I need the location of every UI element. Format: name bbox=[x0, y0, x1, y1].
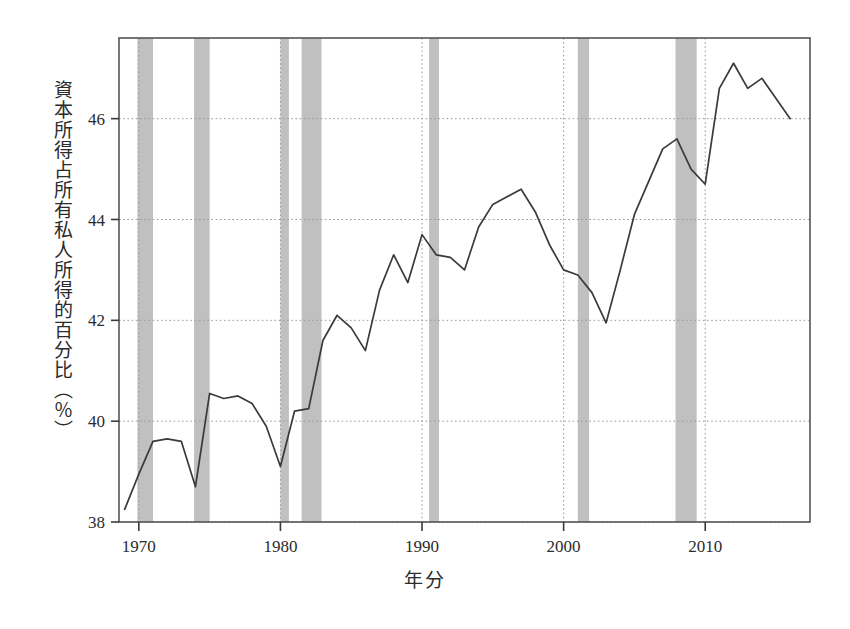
x-axis-tick-label: 1970 bbox=[122, 537, 156, 556]
recession-bands-group bbox=[137, 38, 696, 522]
y-axis-tick-label: 46 bbox=[88, 110, 105, 129]
recession-band bbox=[429, 38, 439, 522]
axes-group bbox=[119, 38, 810, 522]
chart-figure: 資本所得占所有私人所得的百分比（％） 年分 384042444619701980… bbox=[0, 0, 850, 629]
x-axis-tick-label: 1990 bbox=[405, 537, 439, 556]
x-axis-tick-label: 2000 bbox=[547, 537, 581, 556]
recession-band bbox=[675, 38, 696, 522]
x-axis-tick-label: 2010 bbox=[688, 537, 722, 556]
recession-band bbox=[137, 38, 153, 522]
recession-band bbox=[578, 38, 589, 522]
y-axis-tick-label: 38 bbox=[88, 513, 105, 532]
plot-frame bbox=[119, 38, 810, 522]
gridlines-group bbox=[119, 38, 810, 522]
recession-band bbox=[302, 38, 322, 522]
x-axis-tick-label: 1980 bbox=[263, 537, 297, 556]
y-axis-tick-label: 42 bbox=[88, 311, 105, 330]
line-chart-canvas: 384042444619701980199020002010 bbox=[0, 0, 850, 629]
y-axis-tick-label: 44 bbox=[88, 211, 106, 230]
axis-tick-labels-group: 384042444619701980199020002010 bbox=[88, 110, 722, 556]
y-axis-tick-label: 40 bbox=[88, 412, 105, 431]
